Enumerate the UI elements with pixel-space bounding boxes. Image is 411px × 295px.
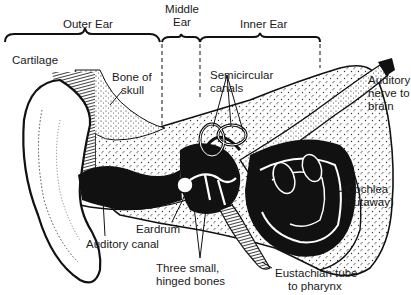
label-bone-of-skull: Bone of skull xyxy=(112,71,152,97)
ear-anatomy-diagram xyxy=(0,0,411,295)
label-auditory-nerve-line1: Auditory xyxy=(368,74,410,87)
label-bone-of-skull-line2: skull xyxy=(112,84,152,97)
label-outer-ear: Outer Ear xyxy=(63,18,113,31)
label-cochlea: Cochlea (cutaway) xyxy=(344,183,394,209)
label-semicircular-line2: canals xyxy=(210,82,273,95)
label-eustachian-line2: to pharynx xyxy=(275,280,357,293)
label-auditory-nerve-line2: nerve to xyxy=(368,87,410,100)
label-auditory-nerve: Auditory nerve to brain xyxy=(368,74,410,113)
label-semicircular-line1: Semicircular xyxy=(210,69,273,82)
label-cartilage: Cartilage xyxy=(12,54,58,67)
label-eustachian-line1: Eustachian tube xyxy=(275,267,357,280)
label-eardrum: Eardrum xyxy=(136,223,180,236)
label-three-bones-line1: Three small, xyxy=(156,262,225,275)
label-cochlea-line1: Cochlea xyxy=(344,183,394,196)
label-auditory-nerve-line3: brain xyxy=(368,100,410,113)
label-middle-ear-line1: Middle xyxy=(163,3,201,16)
label-cochlea-line2: (cutaway) xyxy=(344,196,394,209)
middle-ear-brace xyxy=(162,34,200,42)
label-inner-ear: Inner Ear xyxy=(240,18,287,31)
label-middle-ear-line2: Ear xyxy=(163,16,201,29)
label-middle-ear: Middle Ear xyxy=(163,3,201,29)
label-three-small-bones: Three small, hinged bones xyxy=(156,262,225,288)
label-eustachian-tube: Eustachian tube to pharynx xyxy=(275,267,357,293)
inner-ear-brace xyxy=(200,33,320,42)
label-three-bones-line2: hinged bones xyxy=(156,275,225,288)
label-bone-of-skull-line1: Bone of xyxy=(112,71,152,84)
label-semicircular-canals: Semicircular canals xyxy=(210,69,273,95)
label-auditory-canal: Auditory canal xyxy=(86,238,159,251)
